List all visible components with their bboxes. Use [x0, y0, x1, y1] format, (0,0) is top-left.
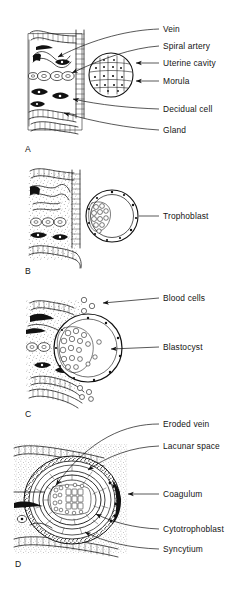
label-morula: Morula	[163, 76, 190, 86]
panel-c-blastocyst	[54, 314, 122, 382]
label-trophoblast: Trophoblast	[163, 211, 209, 221]
panel-letter-c: C	[25, 409, 31, 419]
label-blastocyst: Blastocyst	[163, 342, 203, 352]
label-coagulum: Coagulum	[163, 489, 202, 499]
label-cytotrophoblast: Cytotrophoblast	[163, 524, 224, 534]
panel-d-conceptus	[24, 456, 121, 544]
implantation-diagram: Vein Spiral artery Uterine cavity Morula…	[0, 0, 251, 590]
panel-b-vessels	[31, 218, 66, 227]
panel-letter-a: A	[25, 144, 31, 154]
label-lacunar-space: Lacunar space	[163, 441, 220, 451]
label-decidual-cell: Decidual cell	[163, 104, 212, 114]
figure-root: Vein Spiral artery Uterine cavity Morula…	[0, 0, 251, 590]
label-vein: Vein	[163, 24, 180, 34]
label-syncytium: Syncytium	[163, 544, 203, 554]
label-spiral-artery: Spiral artery	[163, 41, 211, 51]
panel-b-blastocyst	[86, 190, 138, 242]
panel-letter-b: B	[25, 266, 31, 276]
panel-a-morula	[89, 53, 133, 97]
panel-letter-d: D	[15, 559, 21, 569]
label-blood-cells: Blood cells	[163, 293, 205, 303]
label-uterine-cavity: Uterine cavity	[163, 58, 216, 68]
label-eroded-vein: Eroded vein	[163, 419, 210, 429]
label-gland: Gland	[163, 125, 186, 135]
